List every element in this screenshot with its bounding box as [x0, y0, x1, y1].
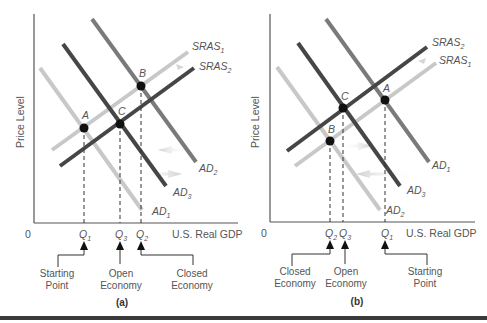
x-axis-label: U.S. Real GDP — [172, 228, 243, 240]
ad1-label: AD1 — [431, 159, 451, 173]
panel-a: Price Level A C B SRAS1 SRAS2 AD2 AD3 AD… — [14, 14, 243, 308]
arrowhead-icon — [80, 241, 88, 250]
starting-point-pointer — [58, 248, 84, 267]
annotation-starting: Starting — [408, 266, 442, 277]
ad2-curve — [92, 19, 196, 162]
sras2-label: SRAS2 — [199, 60, 232, 74]
point-c-label: C — [118, 105, 126, 117]
annotation-point: Point — [46, 280, 69, 291]
closed-economy-pointer — [141, 248, 193, 265]
arrowhead-icon — [116, 241, 124, 250]
figure: Price Level A C B SRAS1 SRAS2 AD2 AD3 AD… — [0, 0, 487, 323]
point-a — [381, 96, 390, 105]
origin-label: 0 — [25, 228, 31, 240]
sras1-curve — [52, 52, 188, 150]
annotation-open-economy: Economy — [100, 280, 142, 291]
annotation-open: Open — [334, 266, 358, 277]
panel-b-label: (b) — [351, 296, 364, 307]
ad1-curve — [40, 68, 142, 210]
arrowhead-icon — [341, 240, 349, 249]
ad3-label: AD3 — [406, 184, 426, 198]
panel-a-label: (a) — [116, 297, 128, 308]
q2-label: Q2 — [136, 228, 148, 242]
ad3-label: AD3 — [172, 186, 192, 200]
ad2-label: AD2 — [198, 162, 218, 176]
annotation-closed-economy: Economy — [274, 278, 316, 289]
x-axis-label: U.S. Real GDP — [406, 227, 477, 239]
point-a — [80, 124, 89, 133]
starting-point-pointer — [385, 247, 427, 265]
arrowhead-icon — [137, 241, 145, 250]
q1-label: Q1 — [381, 227, 393, 241]
bottom-divider — [0, 316, 487, 320]
shift-arrow-up-icon — [176, 64, 184, 70]
point-c-label: C — [341, 90, 349, 102]
ad1-label: AD1 — [151, 205, 171, 219]
annotation-starting: Starting — [40, 268, 74, 279]
point-b-label: B — [139, 67, 146, 79]
point-c — [116, 120, 125, 129]
q3-label: Q3 — [339, 227, 351, 241]
q2-label: Q2 — [325, 227, 337, 241]
point-c — [339, 104, 348, 113]
annotation-closed: Closed — [176, 268, 207, 279]
q3-label: Q3 — [115, 228, 127, 242]
y-axis-label: Price Level — [14, 96, 26, 148]
y-axis-label: Price Level — [249, 96, 261, 148]
annotation-closed: Closed — [279, 266, 310, 277]
point-b — [326, 137, 335, 146]
annotation-open-economy: Economy — [325, 278, 367, 289]
closed-economy-pointer — [292, 247, 330, 266]
point-a-label: A — [81, 109, 89, 121]
point-a-label: A — [382, 82, 390, 94]
origin-label: 0 — [261, 227, 267, 239]
panel-b: Price Level B C A SRAS2 SRAS1 AD1 AD3 AD… — [249, 14, 477, 307]
ad3-curve — [63, 44, 166, 186]
shift-arrow-up-icon — [418, 58, 426, 64]
sras1-label: SRAS1 — [192, 40, 225, 54]
arrowhead-icon — [326, 240, 334, 249]
annotation-open: Open — [109, 268, 133, 279]
annotation-closed-economy: Economy — [171, 280, 213, 291]
sras1-label: SRAS1 — [439, 54, 472, 68]
annotation-point: Point — [414, 278, 437, 289]
arrowhead-icon — [381, 240, 389, 249]
sras2-label: SRAS2 — [432, 36, 465, 50]
point-b-label: B — [328, 123, 335, 135]
q1-label: Q1 — [79, 228, 91, 242]
sras1-curve — [295, 63, 436, 166]
ad2-label: AD2 — [385, 204, 405, 218]
point-b — [137, 82, 146, 91]
